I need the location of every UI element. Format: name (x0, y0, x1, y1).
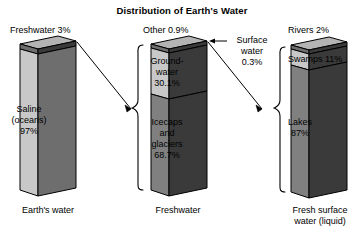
col3-axis-label-line1: Fresh surface (276, 205, 364, 216)
surface-water-annotation-line1: Surface (226, 35, 278, 46)
col3-top-annotation: Rivers 2% (288, 25, 329, 36)
col2-segment-groundwater-line2: water (143, 67, 191, 78)
col2-segment-groundwater-line3: 30.1% (143, 78, 191, 89)
col1-segment-saline-line2: (oceans) (0, 115, 58, 126)
col2-axis-label: Freshwater (136, 205, 220, 216)
col2-segment-icecaps-line1: Icecaps (143, 117, 191, 128)
col2-segment-icecaps-line4: 68.7% (143, 150, 191, 161)
col1-axis-label: Earth's water (6, 205, 90, 216)
distribution-of-earths-water-figure: Distribution of Earth's Water (0, 0, 364, 235)
col2-segment-icecaps-line3: glaciers (143, 139, 191, 150)
col3-axis-label-line2: water (liquid) (276, 216, 364, 227)
col3-segment-lakes-line1: Lakes (285, 117, 315, 128)
col1-segment-saline-line1: Saline (0, 104, 58, 115)
col1-segment-saline-line3: 97% (0, 126, 58, 137)
col2-segment-groundwater-line1: Ground- (143, 56, 191, 67)
col3-segment-lakes-line2: 87% (285, 128, 315, 139)
col1-to-col2-leader (77, 42, 131, 109)
brace-fresh-surface-water (274, 47, 285, 192)
surface-water-annotation-line3: 0.3% (226, 57, 278, 68)
col3-segment-swamps: Swamps 11% (288, 54, 348, 65)
brace-freshwater (132, 45, 143, 190)
surface-water-annotation-line2: water (226, 46, 278, 57)
col2-segment-icecaps-line2: and (143, 128, 191, 139)
col2-top-annotation: Other 0.9% (143, 25, 189, 36)
col1-top-annotation: Freshwater 3% (10, 25, 71, 36)
surface-water-arrowhead (209, 39, 215, 44)
